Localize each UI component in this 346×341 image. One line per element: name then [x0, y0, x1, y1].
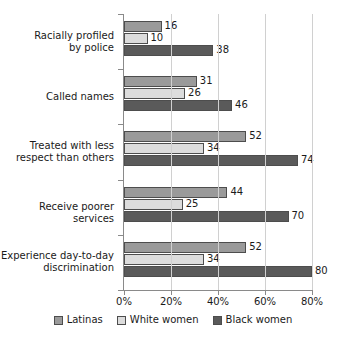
- bar-black-women: [124, 100, 232, 111]
- bar-chart: 161038312646523474442570523480 Racially …: [0, 0, 346, 341]
- y-axis-tick: [118, 180, 124, 181]
- bar-value-label: 26: [185, 86, 201, 100]
- x-axis-tick: [265, 291, 266, 295]
- bar-latinas: [124, 242, 246, 253]
- legend-item-latinas[interactable]: Latinas: [54, 314, 103, 326]
- bar-value-label: 52: [246, 129, 262, 143]
- legend-label: Latinas: [67, 314, 103, 326]
- category-label-line: Treated with less: [0, 140, 114, 152]
- x-axis-tick-label: 60%: [245, 296, 285, 308]
- bar-white-women: [124, 199, 183, 210]
- x-axis-tick: [124, 291, 125, 295]
- bar-white-women: [124, 254, 204, 265]
- bar-white-women: [124, 88, 185, 99]
- bar-value-label: 80: [312, 264, 328, 278]
- x-axis-tick-label: 80%: [292, 296, 332, 308]
- bar-black-women: [124, 155, 298, 166]
- x-axis-tick: [218, 291, 219, 295]
- gridline: [218, 14, 219, 290]
- bar-latinas: [124, 131, 246, 142]
- legend-swatch-icon: [117, 316, 126, 325]
- bar-value-label: 25: [183, 197, 199, 211]
- y-axis-tick: [118, 124, 124, 125]
- category-label: Experience day-to-daydiscrimination: [0, 250, 114, 274]
- bar-value-label: 46: [232, 98, 248, 112]
- legend-label: White women: [130, 314, 199, 326]
- x-axis-tick-label: 20%: [151, 296, 191, 308]
- gridline: [171, 14, 172, 290]
- y-axis-tick: [118, 290, 124, 291]
- gridline: [312, 14, 313, 290]
- chart-legend: LatinasWhite womenBlack women: [0, 314, 346, 326]
- bar-black-women: [124, 45, 213, 56]
- x-axis-tick-label: 0%: [104, 296, 144, 308]
- y-axis-tick: [118, 69, 124, 70]
- category-label: Racially profiledby police: [0, 30, 114, 54]
- x-axis-tick: [171, 291, 172, 295]
- y-axis-tick: [118, 14, 124, 15]
- bar-value-label: 70: [289, 209, 305, 223]
- bar-white-women: [124, 143, 204, 154]
- category-label: Receive poorer services: [0, 201, 114, 225]
- bar-value-label: 16: [162, 19, 178, 33]
- category-label-line: respect than others: [0, 152, 114, 164]
- bar-value-label: 10: [148, 31, 164, 45]
- category-label-line: Called names: [0, 91, 114, 103]
- category-label-line: discrimination: [0, 262, 114, 274]
- x-axis-tick: [312, 291, 313, 295]
- bar-white-women: [124, 33, 148, 44]
- x-axis-tick-label: 40%: [198, 296, 238, 308]
- legend-swatch-icon: [213, 316, 222, 325]
- legend-item-white-women[interactable]: White women: [117, 314, 199, 326]
- category-label-line: Experience day-to-day: [0, 250, 114, 262]
- y-axis-tick: [118, 235, 124, 236]
- bar-value-label: 38: [213, 43, 229, 57]
- bar-value-label: 52: [246, 240, 262, 254]
- bar-black-women: [124, 211, 289, 222]
- bar-value-label: 44: [227, 185, 243, 199]
- legend-swatch-icon: [54, 316, 63, 325]
- category-label-line: Racially profiled: [0, 30, 114, 42]
- bar-latinas: [124, 187, 227, 198]
- category-label-line: by police: [0, 42, 114, 54]
- category-label: Called names: [0, 91, 114, 103]
- category-label: Treated with lessrespect than others: [0, 140, 114, 164]
- category-label-line: Receive poorer services: [0, 201, 114, 225]
- gridline: [265, 14, 266, 290]
- legend-label: Black women: [226, 314, 293, 326]
- legend-item-black-women[interactable]: Black women: [213, 314, 293, 326]
